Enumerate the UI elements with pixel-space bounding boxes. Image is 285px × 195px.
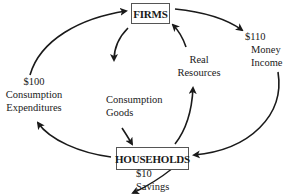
money-income-label: $110 Money Income <box>245 30 285 69</box>
arrow-goods-upper <box>114 28 128 60</box>
consumption-expenditures-label: $100 Consumption Expenditures <box>4 75 64 114</box>
firms-label: FIRMS <box>133 8 167 20</box>
arrow-resources-lower <box>175 88 193 144</box>
expenditures-amount: $100 <box>4 75 64 88</box>
arrow-expenditures-upper <box>30 11 126 75</box>
consumption-goods-label: Consumption Goods <box>106 93 163 119</box>
firms-node: FIRMS <box>131 3 170 24</box>
goods-line2: Goods <box>106 106 163 119</box>
arrow-resources-upper <box>173 25 186 47</box>
income-line1: Money <box>245 43 285 56</box>
circular-flow-diagram: FIRMS HOUSEHOLDS $100 Consumption Expend… <box>0 0 285 195</box>
resources-line2: Resources <box>174 66 224 79</box>
expenditures-line2: Expenditures <box>4 101 64 114</box>
arrow-income-lower <box>194 72 279 155</box>
arrow-expenditures-lower <box>38 123 111 157</box>
goods-line1: Consumption <box>106 93 163 106</box>
savings-line1: Savings <box>136 180 169 193</box>
arrow-income-upper <box>175 9 242 30</box>
income-amount: $110 <box>245 30 285 43</box>
income-line2: Income <box>245 56 285 69</box>
households-label: HOUSEHOLDS <box>115 153 190 165</box>
expenditures-line1: Consumption <box>4 88 64 101</box>
real-resources-label: Real Resources <box>174 53 224 79</box>
resources-line1: Real <box>174 53 224 66</box>
savings-label: $10 Savings <box>136 167 169 193</box>
arrow-goods-lower <box>122 128 132 144</box>
savings-amount: $10 <box>136 167 169 180</box>
